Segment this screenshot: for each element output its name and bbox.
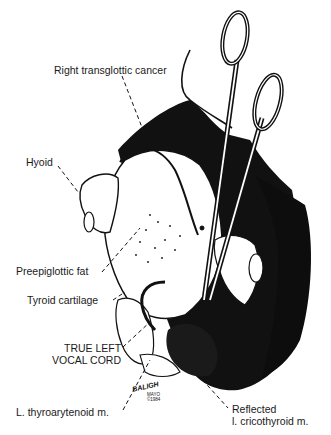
- leader-transglottic: [122, 76, 143, 130]
- label-right-transglottic-cancer: Right transglottic cancer: [54, 64, 167, 76]
- label-reflected-1: Reflected: [232, 403, 276, 415]
- hyoid-foramen: [84, 212, 94, 232]
- label-tyroid-cartilage: Tyroid cartilage: [27, 294, 98, 306]
- anatomical-illustration: Right transglottic cancer Hyoid Preepigl…: [0, 0, 331, 435]
- label-hyoid: Hyoid: [26, 156, 53, 168]
- label-true-left-vocal-cord-1: TRUE LEFT: [64, 342, 121, 354]
- label-l-thyroarytenoid: L. thyroarytenoid m.: [16, 406, 109, 418]
- leader-hyoid: [58, 166, 78, 192]
- signature-year: ©1984: [147, 397, 160, 402]
- label-true-left-vocal-cord-2: VOCAL CORD: [52, 354, 121, 366]
- label-reflected-2: l. cricothyroid m.: [232, 415, 308, 427]
- arytenoid-cartilage: [249, 254, 263, 282]
- label-preepiglottic-fat: Preepiglottic fat: [16, 265, 88, 277]
